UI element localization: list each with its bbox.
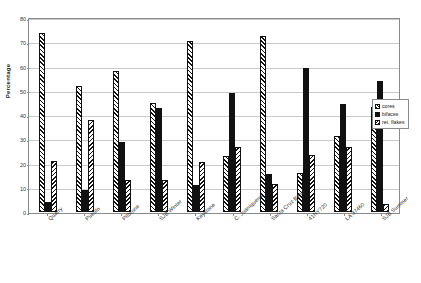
legend-item-cores: cores — [375, 102, 405, 110]
y-tick-label: 70 — [20, 40, 26, 46]
y-tick-mark — [27, 44, 29, 45]
y-tick-label: 50 — [20, 89, 26, 95]
bar-group — [177, 20, 214, 212]
y-tick-label: 80 — [20, 16, 26, 22]
bar-flakes — [88, 120, 94, 212]
legend-label-ret-flakes: ret. flakes — [382, 119, 405, 125]
y-tick-mark — [27, 117, 29, 118]
y-tick-mark — [27, 68, 29, 69]
bar-group — [104, 20, 141, 212]
legend-label-cores: cores — [382, 103, 395, 109]
plot-area: 01020304050607080 — [28, 18, 400, 214]
bar-groups — [30, 20, 398, 212]
y-tick-label: 10 — [20, 186, 26, 192]
y-tick-mark — [27, 165, 29, 166]
bar-group — [288, 20, 325, 212]
bar-group — [324, 20, 361, 212]
y-tick-label: 30 — [20, 137, 26, 143]
bar-chart: Percentage 01020304050607080 QuarryPuebl… — [0, 0, 421, 283]
y-tick-mark — [27, 189, 29, 190]
y-tick-mark — [27, 141, 29, 142]
y-axis-title: Percentage — [5, 35, 11, 127]
legend-item-ret-flakes: ret. flakes — [375, 118, 405, 126]
x-axis-labels: QuarryPuebloPitbroneSJB WinterKeystoneC.… — [28, 215, 400, 281]
bar-flakes — [346, 147, 352, 212]
y-tick-label: 40 — [20, 113, 26, 119]
legend-swatch-cores-icon — [375, 104, 380, 109]
chart-legend: cores bifaces ret. flakes — [372, 99, 409, 129]
bar-cores — [39, 33, 45, 212]
y-tick-mark — [27, 92, 29, 93]
bar-flakes — [272, 184, 278, 212]
legend-label-bifaces: bifaces — [382, 111, 398, 117]
y-tick-label: 20 — [20, 162, 26, 168]
legend-swatch-bifaces-icon — [375, 112, 380, 117]
bar-flakes — [309, 155, 315, 212]
bar-group — [214, 20, 251, 212]
legend-item-bifaces: bifaces — [375, 110, 405, 118]
bar-group — [140, 20, 177, 212]
y-tick-label: 60 — [20, 65, 26, 71]
bar-group — [251, 20, 288, 212]
bar-flakes — [199, 162, 205, 212]
y-tick-mark — [27, 20, 29, 21]
legend-swatch-ret-flakes-icon — [375, 120, 380, 125]
bar-group — [30, 20, 67, 212]
bar-flakes — [235, 147, 241, 212]
bar-group — [67, 20, 104, 212]
y-tick-label: 0 — [23, 210, 26, 216]
bar-flakes — [51, 161, 57, 212]
